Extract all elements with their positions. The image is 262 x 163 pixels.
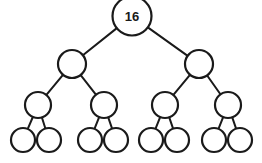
tree-edge-n4-n9 (94, 117, 99, 130)
node-circle-n11 (139, 128, 163, 152)
tree-edge-n0-n1 (83, 28, 118, 56)
edge-layer (28, 27, 237, 129)
tree-node-n9[interactable] (78, 128, 102, 152)
binary-tree-figure: 16 (0, 0, 262, 163)
tree-edge-n1-n3 (46, 74, 63, 95)
tree-edge-n4-n10 (108, 117, 112, 129)
tree-node-n1[interactable] (58, 50, 86, 78)
node-circle-n4 (91, 92, 117, 118)
node-circle-n13 (202, 128, 226, 152)
tree-node-n8[interactable] (37, 128, 61, 152)
tree-node-n3[interactable] (25, 92, 51, 118)
tree-edge-n2-n6 (207, 75, 221, 95)
tree-edge-n0-n2 (147, 27, 188, 56)
tree-node-n2[interactable] (185, 50, 213, 78)
binary-tree-canvas: 16 (0, 0, 262, 163)
tree-edge-n3-n7 (28, 116, 34, 129)
node-circle-n8 (37, 128, 61, 152)
node-circle-n9 (78, 128, 102, 152)
tree-node-n7[interactable] (11, 128, 35, 152)
node-circle-n12 (165, 128, 189, 152)
tree-node-n14[interactable] (228, 128, 252, 152)
tree-node-n10[interactable] (104, 128, 128, 152)
tree-node-n4[interactable] (91, 92, 117, 118)
tree-node-n12[interactable] (165, 128, 189, 152)
tree-node-n6[interactable] (215, 92, 241, 118)
node-circle-n2 (185, 50, 213, 78)
node-label-n0: 16 (125, 9, 139, 24)
node-circle-n10 (104, 128, 128, 152)
tree-edge-n6-n14 (232, 117, 236, 129)
node-circle-n7 (11, 128, 35, 152)
tree-edge-n1-n4 (80, 75, 96, 96)
tree-node-n0[interactable]: 16 (113, 0, 152, 36)
tree-edge-n6-n13 (218, 117, 223, 130)
node-circle-n14 (228, 128, 252, 152)
tree-node-n13[interactable] (202, 128, 226, 152)
tree-edge-n5-n12 (169, 117, 173, 129)
node-circle-n3 (25, 92, 51, 118)
tree-node-n5[interactable] (152, 92, 178, 118)
tree-edge-n2-n5 (173, 74, 190, 95)
node-circle-n1 (58, 50, 86, 78)
node-layer: 16 (11, 0, 252, 152)
tree-node-n11[interactable] (139, 128, 163, 152)
tree-edge-n3-n8 (42, 117, 46, 129)
node-circle-n5 (152, 92, 178, 118)
node-circle-n6 (215, 92, 241, 118)
tree-edge-n5-n11 (155, 117, 160, 130)
